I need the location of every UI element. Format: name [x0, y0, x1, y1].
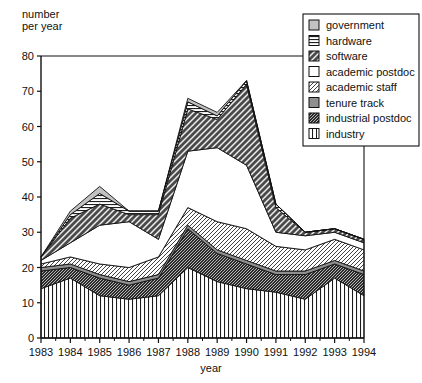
x-tick-label: 1988: [176, 346, 200, 358]
legend-swatch-hardware: [309, 36, 319, 46]
y-tick-label: 40: [22, 191, 34, 203]
legend-label-academic-postdoc: academic postdoc: [326, 66, 415, 78]
legend-label-industrial-postdoc: industrial postdoc: [326, 112, 412, 124]
x-tick-label: 1986: [117, 346, 141, 358]
y-tick-label: 20: [22, 262, 34, 274]
legend-swatch-academic-postdoc: [309, 67, 319, 77]
y-tick-label: 0: [28, 332, 34, 344]
y-tick-label: 50: [22, 156, 34, 168]
x-tick-label: 1992: [293, 346, 317, 358]
legend-label-government: government: [326, 19, 384, 31]
legend-label-tenure-track: tenure track: [326, 97, 385, 109]
y-axis-title: number per year: [22, 8, 62, 32]
legend-label-academic-staff: academic staff: [326, 81, 398, 93]
plot-area: 01020304050607080 1983198419851986198719…: [0, 0, 422, 383]
x-axis-title: year: [0, 362, 422, 374]
legend-swatch-industry: [309, 129, 319, 139]
x-axis-ticks: 1983198419851986198719881989199019911992…: [29, 338, 376, 358]
y-axis-ticks: 01020304050607080: [22, 50, 41, 344]
x-tick-label: 1983: [29, 346, 53, 358]
x-tick-label: 1989: [205, 346, 229, 358]
y-tick-label: 10: [22, 297, 34, 309]
legend-label-software: software: [326, 50, 368, 62]
x-tick-label: 1985: [87, 346, 111, 358]
legend-label-industry: industry: [326, 128, 365, 140]
legend-label-hardware: hardware: [326, 35, 372, 47]
x-tick-label: 1994: [352, 346, 376, 358]
x-tick-label: 1991: [264, 346, 288, 358]
x-tick-label: 1993: [322, 346, 346, 358]
y-tick-label: 30: [22, 226, 34, 238]
y-tick-label: 60: [22, 121, 34, 133]
stacked-area-chart: number per year year: [0, 0, 422, 383]
legend-swatch-tenure-track: [309, 98, 319, 108]
legend-swatch-industrial-postdoc: [309, 113, 319, 123]
legend-swatch-academic-staff: [309, 82, 319, 92]
legend-swatch-software: [309, 51, 319, 61]
x-tick-label: 1987: [146, 346, 170, 358]
y-tick-label: 70: [22, 85, 34, 97]
x-tick-label: 1990: [234, 346, 258, 358]
y-tick-label: 80: [22, 50, 34, 62]
x-tick-label: 1984: [58, 346, 82, 358]
legend: governmenthardwaresoftwareacademic postd…: [303, 14, 419, 146]
legend-swatch-government: [309, 20, 319, 30]
